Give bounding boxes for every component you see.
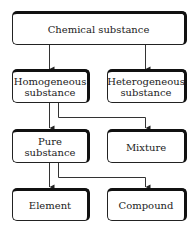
node-label-line2: substance [24,147,75,158]
node-label: Compound [119,200,174,211]
node-compound: Compound [107,188,187,221]
node-element: Element [12,188,90,221]
node-label-line2: substance [120,87,171,98]
node-label: Chemical substance [48,24,150,35]
node-label-line1: Homogeneous [14,76,87,87]
node-homogeneous-substance: Homogeneous substance [12,69,90,103]
node-label: Element [29,200,71,211]
node-mixture: Mixture [107,129,187,163]
substance-classification-diagram: Chemical substance Homogeneous substance… [0,0,195,231]
node-chemical-substance: Chemical substance [12,11,187,45]
node-label: Mixture [126,142,166,153]
node-label-line1: Pure [38,136,62,147]
node-pure-substance: Pure substance [12,129,90,163]
node-label-line2: substance [24,87,75,98]
node-heterogeneous-substance: Heterogeneous substance [107,69,187,103]
arrow-pure-to-compound [59,162,146,187]
arrow-homogeneous-to-mixture [59,102,146,128]
node-label-line1: Heterogeneous [107,76,185,87]
